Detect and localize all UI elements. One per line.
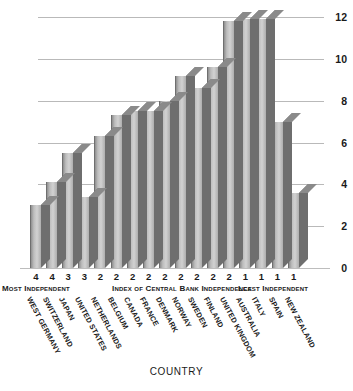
chart-plot-area: 024681012 [0, 0, 353, 300]
annotation-label: Most Independent [2, 285, 70, 293]
x-axis-title: COUNTRY [0, 366, 353, 377]
index-value: 2 [142, 272, 156, 282]
bar-top-face [299, 184, 317, 193]
index-value: 2 [174, 272, 188, 282]
bar-side-face [138, 102, 147, 268]
bar-side-face [299, 184, 308, 268]
index-value: 3 [77, 272, 91, 282]
index-value: 2 [190, 272, 204, 282]
bar-side-face [283, 113, 292, 268]
bar-side-face [202, 79, 211, 268]
bar-side-face [41, 196, 50, 268]
index-value: 1 [271, 272, 285, 282]
bar-side-face [250, 10, 259, 268]
index-value: 2 [110, 272, 124, 282]
bar-front-face [30, 205, 41, 268]
bar-side-face [186, 67, 195, 268]
bar-side-face [218, 58, 227, 268]
bar-side-face [57, 173, 66, 268]
bar-side-face [234, 12, 243, 268]
index-value: 1 [254, 272, 268, 282]
index-value: 4 [45, 272, 59, 282]
index-value: 2 [222, 272, 236, 282]
bar-side-face [266, 10, 275, 268]
index-value: 4 [29, 272, 43, 282]
country-label: ITALY [251, 296, 267, 318]
index-value: 2 [158, 272, 172, 282]
bar-series [0, 0, 353, 300]
bar-side-face [89, 188, 98, 268]
country-label: SPAIN [267, 296, 284, 320]
bar-side-face [154, 102, 163, 268]
country-label: NEW ZEALAND [283, 296, 316, 349]
index-value: 1 [238, 272, 252, 282]
index-value: 2 [206, 272, 220, 282]
bar [30, 0, 41, 268]
bar-side-face [73, 144, 82, 268]
index-value: 1 [287, 272, 301, 282]
bar-side-face [122, 106, 131, 268]
annotation-label: Index of Central Bank Independence [112, 285, 252, 293]
index-value: 3 [61, 272, 75, 282]
bar-side-face [170, 92, 179, 268]
index-value: 2 [93, 272, 107, 282]
annotation-label: Least Independent [238, 285, 308, 293]
index-value: 2 [126, 272, 140, 282]
bar-side-face [105, 127, 114, 268]
